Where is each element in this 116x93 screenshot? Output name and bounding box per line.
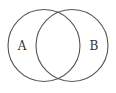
set-a-label: A xyxy=(17,39,27,53)
venn-diagram: A B xyxy=(0,0,116,93)
set-b-label: B xyxy=(90,39,99,53)
